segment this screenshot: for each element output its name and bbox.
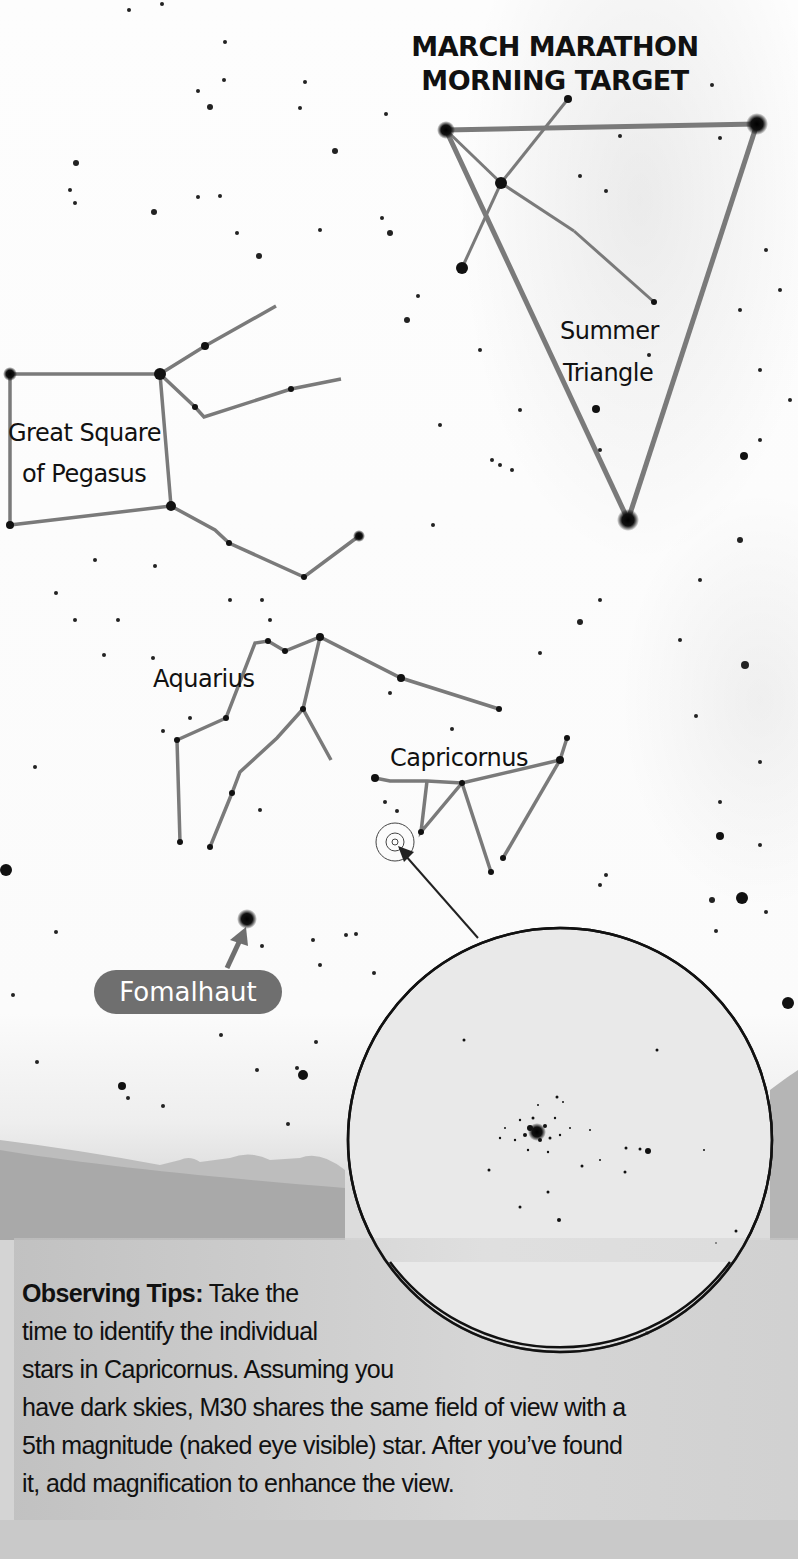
label-capricornus: Capricornus bbox=[390, 737, 528, 779]
label-great-square: Great Square bbox=[8, 412, 161, 454]
label-triangle: Triangle bbox=[563, 352, 653, 394]
observing-tips: Observing Tips: Take the time to identif… bbox=[22, 1274, 762, 1502]
m30-target-marker bbox=[376, 823, 478, 938]
page-title: MARCH MARATHON MORNING TARGET bbox=[390, 30, 720, 98]
bright-stars bbox=[0, 95, 794, 1090]
fomalhaut-pointer bbox=[227, 927, 248, 968]
tips-line-2: time to identify the individual bbox=[22, 1312, 762, 1350]
tips-line-4: have dark skies, M30 shares the same fie… bbox=[22, 1388, 762, 1426]
faint-stars bbox=[11, 2, 792, 1126]
ground-strip bbox=[0, 1520, 798, 1559]
title-line-1: MARCH MARATHON bbox=[390, 30, 720, 64]
label-summer: Summer bbox=[560, 310, 659, 352]
label-of-pegasus: of Pegasus bbox=[22, 453, 146, 495]
tips-line-5: 5th magnitude (naked eye visible) star. … bbox=[22, 1426, 762, 1464]
tips-line-6: it, add magnification to enhance the vie… bbox=[22, 1464, 762, 1502]
label-fomalhaut: Fomalhaut bbox=[94, 970, 282, 1014]
label-aquarius: Aquarius bbox=[153, 658, 254, 700]
tips-line-3: stars in Capricornus. Assuming you bbox=[22, 1350, 762, 1388]
tips-line-1: Observing Tips: Take the bbox=[22, 1274, 762, 1312]
tips-heading: Observing Tips: bbox=[22, 1279, 203, 1307]
title-line-2: MORNING TARGET bbox=[390, 64, 720, 98]
